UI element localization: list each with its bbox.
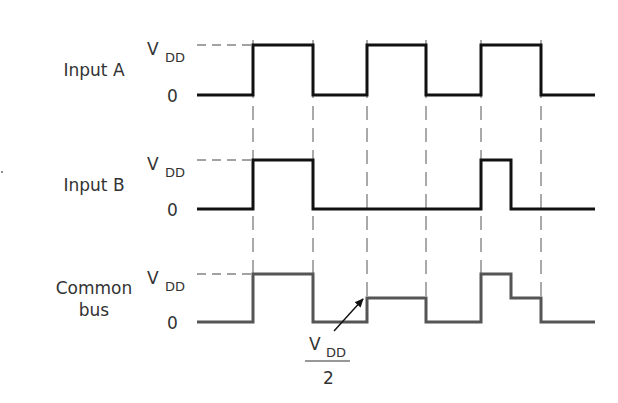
zero-label: 0 xyxy=(167,200,178,220)
waveform-common-bus xyxy=(197,274,595,322)
half-denominator: 2 xyxy=(323,368,334,388)
zero-label: 0 xyxy=(167,313,178,333)
vdd-subscript: DD xyxy=(165,165,185,180)
vdd-label: V xyxy=(147,154,159,174)
signal-traces xyxy=(197,45,595,322)
zero-label: 0 xyxy=(167,86,178,106)
vdd-subscript: DD xyxy=(165,50,185,65)
signal-name-label: Input B xyxy=(63,175,124,195)
signal-name-label: Input A xyxy=(63,60,124,80)
waveform-input-a xyxy=(197,45,595,95)
signal-labels: VDD0Input AVDD0Input BVDD0Commonbus xyxy=(56,39,185,333)
timing-diagram: VDD0Input AVDD0Input BVDD0Commonbus V DD… xyxy=(0,0,618,403)
half-numerator-dd: DD xyxy=(326,345,346,360)
vdd-label: V xyxy=(147,39,159,59)
waveform-input-b xyxy=(197,160,595,209)
vdd-guides xyxy=(197,45,253,274)
vdd-subscript: DD xyxy=(165,279,185,294)
stray-dot xyxy=(1,171,3,173)
arrow-icon xyxy=(334,299,363,331)
signal-name-label: bus xyxy=(79,300,110,320)
half-numerator-v: V xyxy=(309,334,321,354)
transition-guides xyxy=(253,40,541,322)
vdd-label: V xyxy=(147,268,159,288)
signal-name-label: Common xyxy=(56,278,133,298)
